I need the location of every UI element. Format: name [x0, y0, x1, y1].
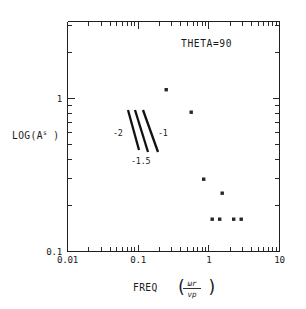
plot-frame — [68, 22, 280, 252]
x-axis-fraction-denominator: vp — [187, 290, 197, 299]
ytick-label-1: 1 — [57, 93, 62, 104]
x-axis-fraction-numerator: ωr — [187, 279, 197, 288]
data-point — [240, 218, 243, 221]
ytick-label-0: 0.1 — [46, 246, 62, 257]
y-axis-title-prefix: LOG(A — [12, 130, 43, 141]
slope-label-minus1p5: -1.5 — [131, 156, 151, 166]
x-axis-ticks-top — [68, 22, 277, 29]
y-axis-title-suffix: ) — [47, 130, 59, 141]
svg-text:LOG(As ): LOG(As ) — [12, 129, 60, 141]
data-point — [202, 178, 205, 181]
x-axis-ticks-bottom — [68, 245, 277, 252]
log-log-scatter-plot: 0.01 0.1 1 10 0.1 1 THETA=90 LOG(As ) FR… — [0, 0, 306, 309]
data-point — [232, 218, 235, 221]
y-axis-ticks-left — [68, 26, 75, 252]
data-point — [218, 218, 221, 221]
slope-label-minus2: -2 — [113, 128, 123, 138]
x-axis-paren-close: ) — [207, 277, 217, 297]
reference-slope-lines — [128, 110, 158, 152]
data-point — [221, 192, 224, 195]
x-axis-title-text: FREQ — [133, 282, 158, 293]
xtick-label-3: 10 — [274, 254, 284, 265]
x-axis-title: FREQ ( ) ωr vp — [133, 277, 217, 299]
x-axis-paren-open: ( — [176, 277, 186, 297]
slope-label-minus1: -1 — [158, 128, 168, 138]
data-point — [165, 88, 168, 91]
y-axis-ticks-right — [273, 26, 280, 252]
y-axis-title: LOG(As ) — [12, 129, 60, 141]
chart-title: THETA=90 — [181, 38, 232, 49]
xtick-label-2: 1 — [206, 254, 211, 265]
xtick-label-1: 0.1 — [130, 254, 146, 265]
figure-container: 0.01 0.1 1 10 0.1 1 THETA=90 LOG(As ) FR… — [0, 0, 306, 309]
data-point — [190, 111, 193, 114]
data-point — [211, 218, 214, 221]
data-point-series — [165, 88, 243, 221]
